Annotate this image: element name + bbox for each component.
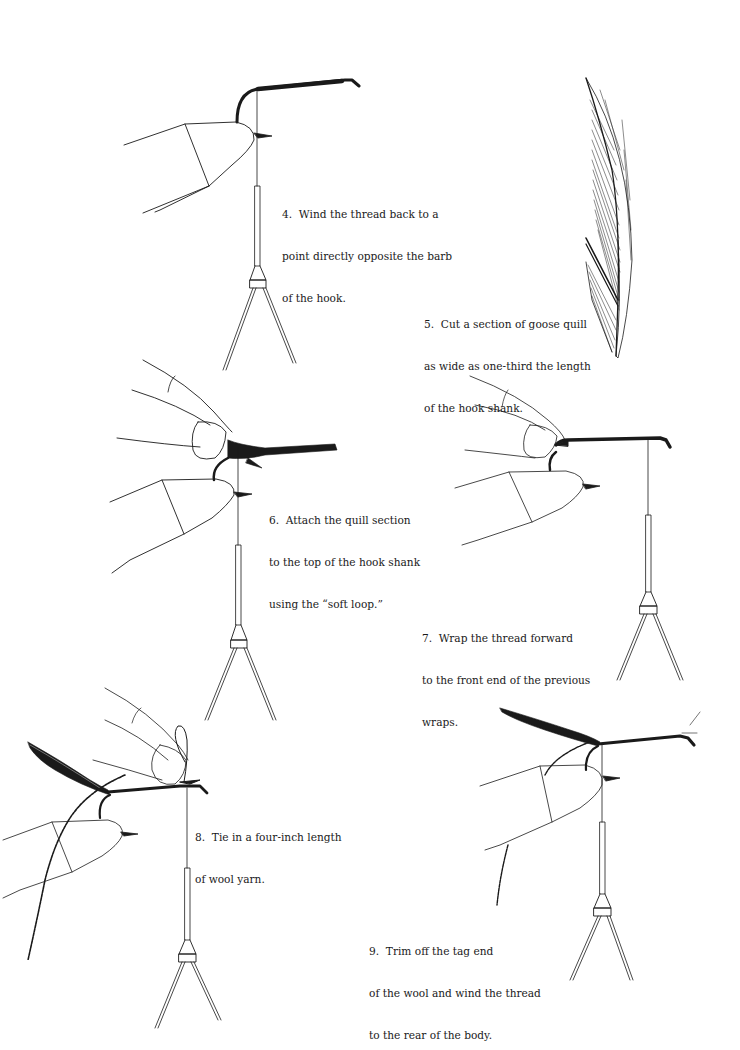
instruction-page: 4. Wind the thread back to a point direc… [0, 0, 740, 1050]
step-5-line-1: 5. Cut a section of goose quill [424, 317, 591, 331]
step-9-line-2: of the wool and wind the thread [369, 986, 541, 1000]
step-8-illustration [3, 688, 221, 1028]
step-6-line-1: 6. Attach the quill section [269, 513, 420, 527]
step-4-line-2: point directly opposite the barb [282, 249, 452, 263]
step-6-line-3: using the “soft loop.” [269, 597, 420, 611]
step-7-line-2: to the front end of the previous [422, 673, 590, 687]
step-9-line-1: 9. Trim off the tag end [369, 944, 541, 958]
step-5-line-2: as wide as one-third the length [424, 359, 591, 373]
step-9-caption: 9. Trim off the tag end of the wool and … [369, 916, 541, 1050]
step-5-feather-illustration [586, 78, 632, 358]
step-6-caption: 6. Attach the quill section to the top o… [269, 485, 420, 639]
step-8-line-1: 8. Tie in a four-inch length [195, 830, 342, 844]
step-5-caption: 5. Cut a section of goose quill as wide … [424, 289, 591, 443]
step-8-line-2: of wool yarn. [195, 872, 342, 886]
step-8-caption: 8. Tie in a four-inch length of wool yar… [195, 802, 342, 914]
step-7-line-3: wraps. [422, 715, 590, 729]
step-7-caption: 7. Wrap the thread forward to the front … [422, 603, 590, 757]
step-9-line-3: to the rear of the body. [369, 1028, 541, 1042]
step-5-line-3: of the hook shank. [424, 401, 591, 415]
step-6-line-2: to the top of the hook shank [269, 555, 420, 569]
step-4-line-1: 4. Wind the thread back to a [282, 207, 452, 221]
step-7-line-1: 7. Wrap the thread forward [422, 631, 590, 645]
